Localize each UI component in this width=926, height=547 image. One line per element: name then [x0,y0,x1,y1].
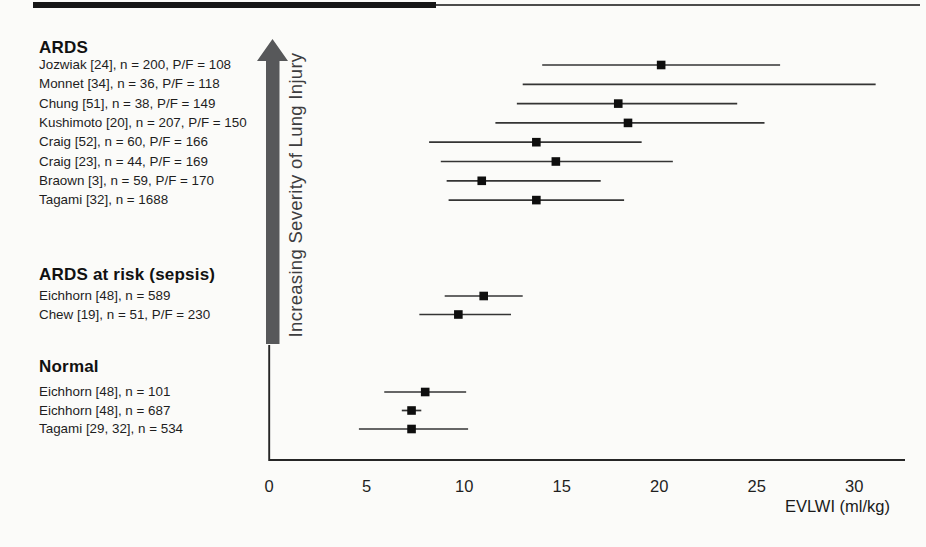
x-tick-label: 30 [845,477,863,495]
x-tick-label: 10 [455,477,473,495]
mean-marker [532,196,541,205]
severity-arrow-label: Increasing Severity of Lung Injury [285,52,306,337]
mean-marker [454,310,463,319]
mean-marker [624,119,633,128]
x-tick-label: 20 [650,477,668,495]
x-tick-label: 15 [553,477,571,495]
forest-plot: Increasing Severity of Lung Injury 05101… [0,0,926,547]
severity-arrow-icon [257,39,288,344]
mean-marker [477,177,486,186]
mean-marker [407,406,416,415]
mean-marker [479,292,488,301]
forest-rows [359,61,876,434]
mean-marker [407,425,416,434]
axis-lines [269,345,905,460]
mean-marker [614,99,623,108]
mean-marker [657,61,666,70]
mean-marker [532,138,541,147]
x-tick-label: 25 [748,477,766,495]
scanned-figure-page: ARDSJozwiak [24], n = 200, P/F = 108Monn… [0,0,926,547]
x-tick-label: 0 [265,477,274,495]
mean-marker [552,157,561,166]
x-axis-ticks: 051015202530 [265,477,864,495]
mean-marker [421,388,430,397]
x-tick-label: 5 [362,477,371,495]
x-axis-label: EVLWI (ml/kg) [785,497,890,515]
